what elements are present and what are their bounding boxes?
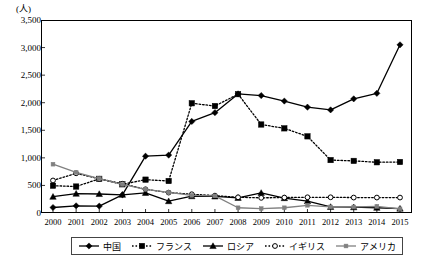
data-point-marker bbox=[328, 107, 334, 113]
data-point-marker bbox=[375, 204, 379, 208]
axis-ticks bbox=[41, 20, 400, 213]
data-point-marker bbox=[236, 195, 241, 200]
data-point-marker bbox=[258, 92, 264, 98]
legend-label: イギリス bbox=[289, 240, 325, 253]
data-point-marker bbox=[352, 205, 356, 209]
data-point-marker bbox=[374, 160, 379, 165]
data-point-marker bbox=[97, 177, 101, 181]
data-point-marker bbox=[328, 195, 333, 200]
legend-marker-icon bbox=[78, 241, 100, 251]
series-line bbox=[53, 94, 400, 186]
data-point-marker bbox=[167, 190, 171, 194]
x-axis-tick-2003: 2003 bbox=[114, 217, 131, 227]
x-axis-tick-2014: 2014 bbox=[368, 217, 385, 227]
data-point-marker bbox=[259, 122, 264, 127]
y-axis-tick-2000: 2,000 bbox=[3, 98, 41, 108]
data-point-marker bbox=[235, 91, 240, 96]
data-point-marker bbox=[190, 193, 194, 197]
series-フランス bbox=[50, 91, 402, 189]
data-point-marker bbox=[282, 126, 287, 131]
series-ロシア bbox=[50, 190, 403, 211]
data-point-marker bbox=[213, 194, 217, 198]
y-axis-tick-3000: 3,000 bbox=[3, 43, 41, 53]
series-line bbox=[53, 164, 400, 209]
y-axis-tick-2500: 2,500 bbox=[3, 70, 41, 80]
data-point-marker bbox=[282, 195, 287, 200]
data-point-marker bbox=[96, 203, 102, 209]
legend-marker-icon bbox=[202, 241, 224, 251]
data-point-marker bbox=[397, 42, 403, 48]
data-point-marker bbox=[305, 134, 310, 139]
x-axis-tick-2006: 2006 bbox=[183, 217, 200, 227]
data-point-marker bbox=[50, 183, 55, 188]
data-point-marker bbox=[281, 98, 287, 104]
x-axis-tick-2010: 2010 bbox=[276, 217, 293, 227]
data-point-marker bbox=[305, 195, 310, 200]
y-axis-unit-label: (人) bbox=[16, 2, 31, 15]
data-point-marker bbox=[144, 187, 148, 191]
data-point-marker bbox=[259, 207, 263, 211]
legend-label: ロシア bbox=[227, 240, 254, 253]
legend-marker-icon bbox=[335, 241, 357, 251]
y-axis-tick-500: 500 bbox=[3, 180, 41, 190]
line-chart: (人) 05001,0001,5002,0002,5003,0003,500 2… bbox=[0, 0, 422, 260]
legend-item-イギリス[interactable]: イギリス bbox=[264, 240, 325, 253]
data-point-marker bbox=[189, 101, 194, 106]
series-line bbox=[53, 45, 400, 208]
legend-label: 中国 bbox=[103, 240, 121, 253]
y-axis-tick-0: 0 bbox=[3, 208, 41, 218]
legend-item-中国[interactable]: 中国 bbox=[78, 240, 121, 253]
x-axis-tick-2008: 2008 bbox=[230, 217, 247, 227]
x-axis-tick-labels: 2000200120022003200420052006200720082009… bbox=[41, 214, 412, 230]
data-point-marker bbox=[212, 103, 217, 108]
data-point-marker bbox=[86, 243, 92, 249]
data-point-marker bbox=[73, 184, 78, 189]
x-axis-tick-2004: 2004 bbox=[137, 217, 154, 227]
legend-marker-icon bbox=[131, 241, 153, 251]
data-point-marker bbox=[329, 205, 333, 209]
data-point-marker bbox=[351, 158, 356, 163]
data-point-marker bbox=[166, 178, 171, 183]
data-point-marker bbox=[143, 177, 148, 182]
data-point-marker bbox=[397, 159, 402, 164]
data-point-marker bbox=[139, 243, 144, 248]
legend-label: アメリカ bbox=[360, 240, 396, 253]
data-point-marker bbox=[51, 178, 56, 183]
data-point-marker bbox=[258, 190, 264, 196]
data-point-marker bbox=[304, 104, 310, 110]
data-point-marker bbox=[142, 153, 148, 159]
series-line bbox=[53, 193, 400, 209]
data-point-marker bbox=[236, 206, 240, 210]
series-中国 bbox=[50, 42, 403, 211]
x-axis-tick-2005: 2005 bbox=[160, 217, 177, 227]
x-axis-tick-2012: 2012 bbox=[322, 217, 339, 227]
data-point-marker bbox=[374, 90, 380, 96]
data-point-marker bbox=[306, 203, 310, 207]
x-axis-tick-2001: 2001 bbox=[68, 217, 85, 227]
x-axis-tick-2000: 2000 bbox=[45, 217, 62, 227]
data-point-marker bbox=[51, 162, 55, 166]
legend-label: フランス bbox=[156, 240, 192, 253]
x-axis-tick-2015: 2015 bbox=[392, 217, 409, 227]
data-point-marker bbox=[398, 207, 402, 211]
data-point-marker bbox=[259, 195, 264, 200]
data-point-marker bbox=[374, 195, 379, 200]
legend-item-ロシア[interactable]: ロシア bbox=[202, 240, 254, 253]
data-point-marker bbox=[273, 244, 278, 249]
data-point-marker bbox=[351, 195, 356, 200]
data-point-marker bbox=[328, 157, 333, 162]
data-point-marker bbox=[351, 96, 357, 102]
y-axis-tick-1000: 1,000 bbox=[3, 153, 41, 163]
x-axis-tick-2007: 2007 bbox=[206, 217, 223, 227]
y-axis-tick-1500: 1,500 bbox=[3, 125, 41, 135]
data-point-marker bbox=[344, 244, 348, 248]
data-point-marker bbox=[398, 195, 403, 200]
legend-item-アメリカ[interactable]: アメリカ bbox=[335, 240, 396, 253]
plot-series-canvas bbox=[41, 20, 412, 213]
y-axis-tick-3500: 3,500 bbox=[3, 15, 41, 25]
data-point-marker bbox=[73, 203, 79, 209]
x-axis-tick-2013: 2013 bbox=[345, 217, 362, 227]
data-point-marker bbox=[121, 182, 125, 186]
data-point-marker bbox=[50, 204, 56, 210]
legend-item-フランス[interactable]: フランス bbox=[131, 240, 192, 253]
